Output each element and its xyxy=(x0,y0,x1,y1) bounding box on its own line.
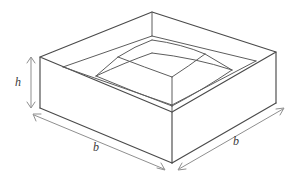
inner-rim-front-left xyxy=(63,67,172,105)
mound-top-front-right-curve xyxy=(172,54,205,77)
outer-bottom-left-edge xyxy=(40,108,172,163)
outer-bottom-right-edge xyxy=(172,103,276,163)
mound-base-left-curve xyxy=(96,53,152,76)
base-left-dimension-group: b xyxy=(33,114,165,170)
mound-crease-right xyxy=(205,54,232,70)
mound-top-front-left-curve xyxy=(118,57,172,77)
inner-rim-back-right xyxy=(152,36,256,61)
inner-rim-back-left xyxy=(63,36,152,67)
figure-canvas: h b b xyxy=(0,0,294,183)
base-left-dimension-line xyxy=(34,115,164,169)
inner-rim-group xyxy=(63,12,256,112)
box-diagram: h b b xyxy=(0,0,294,183)
height-dimension-group: h xyxy=(15,57,35,108)
base-left-label: b xyxy=(93,140,99,154)
base-right-dimension-line xyxy=(179,109,283,169)
base-right-dimension-group: b xyxy=(178,108,284,170)
mound-crease-left xyxy=(96,57,118,76)
base-right-label: b xyxy=(233,134,239,148)
mound-base-front-right-curve xyxy=(172,70,232,106)
outer-box-group xyxy=(40,12,276,163)
outer-top-rim xyxy=(40,12,276,112)
mound-base-front-left-curve xyxy=(96,76,172,106)
height-label: h xyxy=(15,75,21,89)
inner-rim-front-right xyxy=(172,61,256,105)
mound-base-right-curve xyxy=(152,53,232,70)
